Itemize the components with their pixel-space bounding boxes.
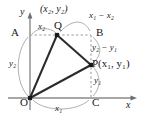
label-segment-y2: y₂ xyxy=(9,59,16,68)
brace-x1-minus-x2 xyxy=(60,22,90,32)
label-point-p: P(x₁, y₁) xyxy=(92,58,130,69)
label-point-q: Q xyxy=(54,20,62,31)
label-segment-y2-minus-y1: y₂ − y₁ xyxy=(92,43,117,52)
dot-Q xyxy=(55,33,59,37)
label-origin: O xyxy=(20,97,28,108)
label-q-coordinates: (x₂, y₂) xyxy=(40,4,68,14)
brace-y2 xyxy=(18,37,28,96)
label-y-axis: y xyxy=(20,7,24,17)
triangle-OQP xyxy=(30,35,91,98)
label-x-axis: x xyxy=(126,100,130,110)
label-point-a: A xyxy=(11,27,19,38)
label-point-c: C xyxy=(92,97,99,108)
geometry-figure: (x₂, y₂) Q P(x₁, y₁) A B C O y x x₂ x₁ −… xyxy=(0,0,150,125)
label-segment-y1: y₁ xyxy=(94,76,101,85)
dot-O xyxy=(28,96,32,100)
label-segment-x1: x₁ xyxy=(55,104,62,113)
label-segment-x2: x₂ xyxy=(38,22,45,31)
label-segment-x1-minus-x2: x₁ − x₂ xyxy=(89,11,114,20)
dashed-helpers xyxy=(30,35,91,98)
segment-OP xyxy=(30,65,91,98)
vertex-dots xyxy=(28,33,93,100)
segment-OQ xyxy=(30,35,57,98)
segment-QP xyxy=(57,35,91,65)
y-axis-arrowhead xyxy=(28,12,33,19)
x-axis-arrowhead xyxy=(131,96,138,101)
label-point-b: B xyxy=(96,27,103,38)
